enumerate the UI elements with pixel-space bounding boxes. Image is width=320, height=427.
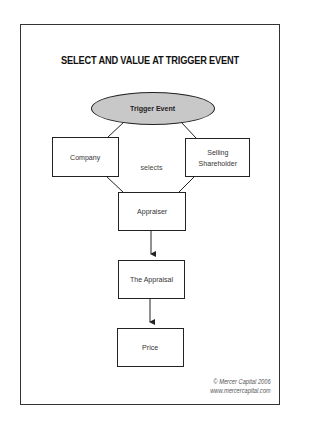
edge-trigger-shareholder xyxy=(181,122,196,138)
node-selling-shareholder: Selling Shareholder xyxy=(185,138,250,177)
node-the-appraisal: The Appraisal xyxy=(118,260,185,299)
edge-label-selects: selects xyxy=(130,163,172,172)
node-the-appraisal-label: The Appraisal xyxy=(130,274,173,285)
node-price: Price xyxy=(117,328,184,367)
footer-url: www.mercercapital.com xyxy=(211,386,271,395)
node-company: Company xyxy=(52,137,119,177)
edge-company-appraiser xyxy=(106,176,123,192)
node-selling-shareholder-line2: Shareholder xyxy=(198,158,236,169)
node-company-label: Company xyxy=(70,152,100,163)
node-selling-shareholder-line1: Selling xyxy=(198,147,236,158)
node-selling-shareholder-label: Selling Shareholder xyxy=(198,147,236,169)
edge-label-selects-text: selects xyxy=(140,163,162,172)
footer-credit: © Mercer Capital 2006 www.mercercapital.… xyxy=(202,377,271,395)
footer-copyright: © Mercer Capital 2006 xyxy=(211,377,271,386)
node-trigger-event-label: Trigger Event xyxy=(131,104,176,113)
node-price-label: Price xyxy=(142,342,158,353)
edge-trigger-company xyxy=(108,122,124,137)
node-trigger-event: Trigger Event xyxy=(91,92,215,125)
node-appraiser-label: Appraiser xyxy=(137,206,167,217)
edge-shareholder-appraiser xyxy=(179,176,195,192)
node-appraiser: Appraiser xyxy=(118,192,186,231)
